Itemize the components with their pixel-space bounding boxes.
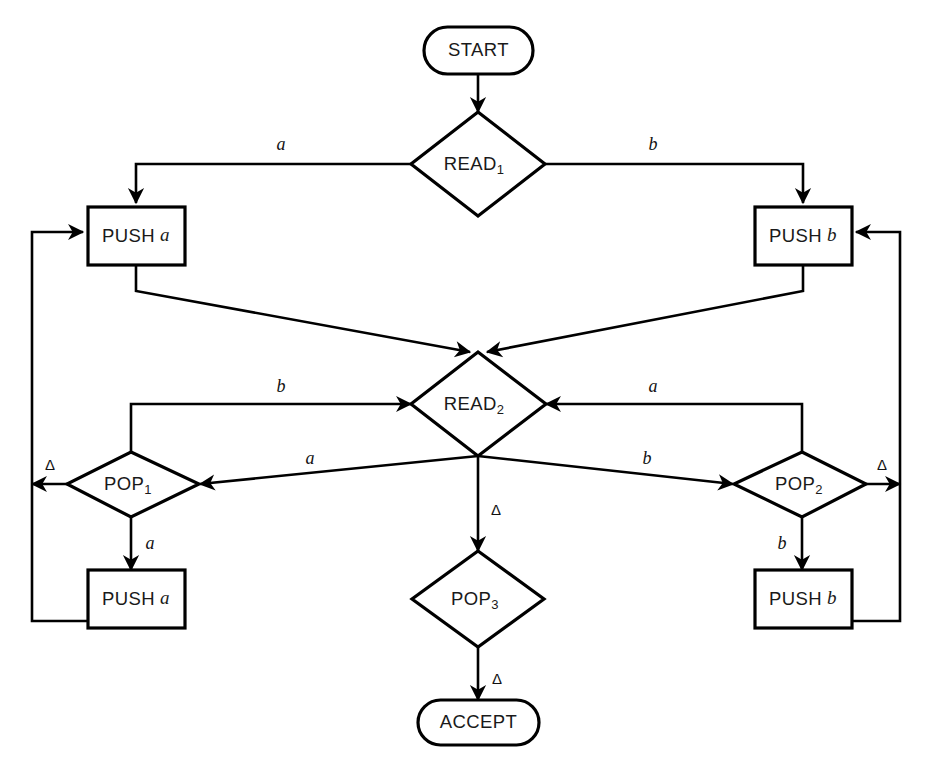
edge-read2-to-pop2 [478, 456, 733, 484]
node-push-a-top[interactable]: PUSHa [88, 207, 185, 265]
node-read2[interactable]: READ2 [411, 352, 546, 456]
node-push-a-top-label: PUSHa [102, 224, 170, 246]
edge-label-pop2-to-push-b: b [778, 533, 787, 553]
edge-read1-to-push-a-top [136, 164, 412, 203]
edge-label-read2-to-pop1: a [306, 448, 315, 468]
node-accept-label: ACCEPT [440, 711, 517, 732]
node-accept[interactable]: ACCEPT [418, 700, 539, 745]
node-push-b-bottom[interactable]: PUSHb [755, 570, 852, 628]
edge-right-return-rail [851, 232, 900, 621]
edge-label-pop1-to-push-a: a [146, 533, 155, 553]
node-push-a-bottom[interactable]: PUSHa [88, 570, 185, 628]
edge-push-a-top-to-read2 [136, 266, 470, 352]
node-start-label: START [448, 39, 509, 60]
edge-label-read1-to-push-b: b [649, 134, 658, 154]
node-push-b-top-label: PUSHb [769, 224, 837, 246]
edge-label-pop2-delta-out: Δ [877, 456, 887, 473]
node-read2-label: READ2 [444, 393, 505, 418]
edge-pop2-to-read2 [546, 404, 802, 452]
nodes-layer: START READ1 PUSHa PUSHb REA [67, 27, 866, 745]
edge-read1-to-push-b-top [545, 164, 803, 203]
edge-left-return-rail [32, 232, 88, 621]
edge-label-read2-to-pop3: Δ [491, 501, 501, 518]
node-push-a-bottom-label: PUSHa [102, 587, 170, 609]
edge-label-pop3-to-accept: Δ [492, 670, 502, 687]
node-push-b-bottom-label: PUSHb [769, 587, 837, 609]
edge-push-b-top-to-read2 [487, 266, 803, 352]
edge-read2-to-pop1 [200, 456, 478, 484]
edge-label-read1-to-push-a: a [277, 134, 286, 154]
node-read1-label: READ1 [444, 153, 505, 178]
node-push-b-top[interactable]: PUSHb [755, 207, 852, 265]
diagram-canvas: START READ1 PUSHa PUSHb REA [0, 0, 931, 769]
node-start[interactable]: START [424, 27, 533, 74]
node-pop2[interactable]: POP2 [734, 452, 866, 517]
flowchart-svg: START READ1 PUSHa PUSHb REA [0, 0, 931, 769]
edge-label-read2-to-pop2: b [643, 448, 652, 468]
edge-label-pop1-to-read2: b [277, 376, 286, 396]
node-pop3[interactable]: POP3 [412, 551, 544, 647]
edge-label-pop2-to-read2: a [649, 376, 658, 396]
node-pop1[interactable]: POP1 [67, 452, 199, 517]
node-read1[interactable]: READ1 [411, 112, 545, 216]
edge-pop1-to-read2 [131, 404, 411, 452]
edge-label-pop1-delta-out: Δ [45, 456, 55, 473]
